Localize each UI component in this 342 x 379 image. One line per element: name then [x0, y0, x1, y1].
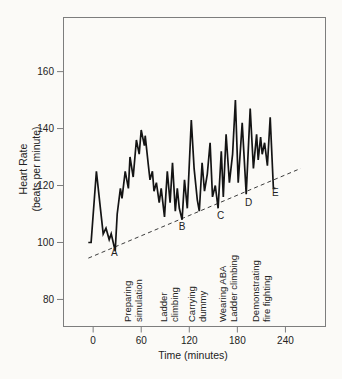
y-axis-title: Heart Rate (beats per minute) [17, 126, 42, 211]
activity-label-4-line-1: fire fighting [261, 276, 272, 322]
activity-label-3-line-1: Ladder climbing [228, 255, 239, 322]
stage-letter-a: A [111, 247, 118, 258]
stage-letter-c: C [217, 210, 224, 221]
trend-line-group [88, 168, 300, 258]
x-tick-label: 240 [277, 335, 294, 346]
heart-rate-chart: 80100120140160 060120180240 Heart Rate (… [0, 0, 342, 379]
stage-letter-b: B [179, 221, 186, 232]
x-tick-label: 120 [181, 335, 198, 346]
activity-label-0-line-0: Preparing [122, 281, 133, 322]
activity-label-0-line-1: simulation [133, 279, 144, 322]
x-tick-label: 180 [229, 335, 246, 346]
y-axis-title-line2: (beats per minute) [30, 126, 42, 211]
y-tick-label: 100 [37, 237, 54, 248]
y-tick-label: 80 [43, 294, 55, 305]
x-axis-title: Time (minutes) [158, 349, 228, 361]
activity-labels: PreparingsimulationLadderclimbingCarryin… [122, 255, 272, 322]
x-tick-label: 60 [136, 335, 148, 346]
y-axis-title-line1: Heart Rate [17, 143, 29, 194]
activity-label-3-line-0: Wearing ABA [217, 265, 228, 322]
x-axis-ticks: 060120180240 [90, 327, 294, 346]
stage-letter-d: D [245, 197, 252, 208]
x-axis-title-text: Time (minutes) [158, 349, 228, 361]
activity-label-2-line-1: dummy [197, 291, 208, 322]
activity-label-1-line-1: climbing [169, 287, 180, 322]
y-tick-label: 160 [37, 66, 54, 77]
activity-label-1-line-0: Ladder [158, 292, 169, 322]
activity-label-2-line-0: Carrying [186, 286, 197, 322]
activity-label-4-line-0: Demonstrating [250, 260, 261, 322]
trend-dashed-line [88, 168, 300, 258]
x-tick-label: 0 [90, 335, 96, 346]
stage-letter-e: E [272, 187, 279, 198]
heart-rate-figure: 80100120140160 060120180240 Heart Rate (… [0, 0, 342, 379]
stage-point-labels: ABCDE [111, 187, 279, 258]
